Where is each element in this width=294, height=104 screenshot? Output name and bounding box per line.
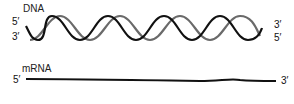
mrna-label: mRNA [22,64,51,74]
dna-strand-front [26,16,262,40]
dna-helix [0,0,294,104]
mrna-left-end: 5′ [13,75,20,85]
mrna-right-end: 3′ [281,76,288,86]
mrna-strand [26,79,276,81]
